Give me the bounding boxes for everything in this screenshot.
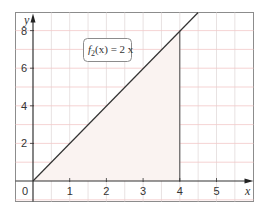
x-axis-label: x: [244, 184, 251, 198]
x-tick-label: 1: [67, 185, 73, 197]
x-tick-label: 3: [140, 185, 146, 197]
x-tick-label: 2: [103, 185, 109, 197]
y-tick-label: 4: [21, 100, 27, 112]
y-tick-label: 6: [21, 62, 27, 74]
origin-label: 0: [22, 185, 28, 197]
y-axis-label: y: [23, 13, 30, 27]
x-tick-label: 5: [213, 185, 219, 197]
y-tick-label: 2: [21, 137, 27, 149]
x-tick-label: 4: [177, 185, 183, 197]
function-annotation: f2(x) = 2 x: [84, 39, 134, 62]
chart: 12345 2468 0 x y f2(x) = 2 x: [0, 0, 264, 212]
